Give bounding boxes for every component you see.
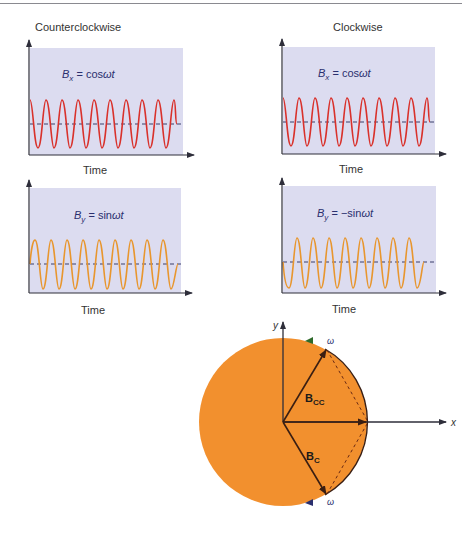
x-axis-label: x	[450, 417, 457, 428]
plot-background	[30, 48, 183, 155]
panel-cw-bx: Bx = cosωt	[282, 39, 446, 154]
omega-label-top: ω	[327, 336, 334, 346]
omega-label-bottom: ω	[327, 497, 334, 507]
panel-ccw-bx: Bx = cosωt	[29, 40, 194, 155]
figure-canvas: Bx = cosωt Bx = cosωt By = sinωt By = −s…	[0, 0, 474, 533]
panel-ccw-by: By = sinωt	[29, 180, 192, 293]
phasor-diagram: ω ω BCC BC y x	[199, 320, 457, 507]
y-axis-label: y	[272, 320, 279, 331]
plot-background	[283, 186, 436, 293]
panel-cw-by: By = −sinωt	[282, 178, 446, 293]
